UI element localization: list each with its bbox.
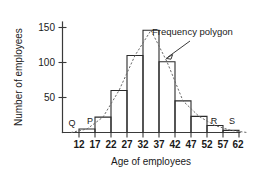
x-tick-label-47: 47 [185,139,197,150]
x-ticks [79,133,239,138]
bar-37-42 [159,62,175,133]
x-tick-label-32: 32 [137,139,149,150]
annotation-leader-line [168,41,190,57]
x-tick-label-22: 22 [105,139,117,150]
bar-52-57 [207,126,223,133]
bar-32-37 [143,30,159,132]
x-tick-label-57: 57 [217,139,229,150]
point-label-p: P [87,116,93,126]
x-tick-label-12: 12 [73,139,85,150]
bar-22-27 [111,91,127,133]
y-tick-label-50: 50 [44,92,56,103]
x-axis-title: Age of employees [111,156,191,167]
annotation-arrow-head [166,55,172,60]
x-tick-label-37: 37 [153,139,165,150]
x-tick-label-42: 42 [169,139,181,150]
point-label-q: Q [68,118,75,128]
y-tick-label-150: 150 [38,22,55,33]
bar-17-22 [95,117,111,132]
x-tick-label-62: 62 [232,139,244,150]
annotation-leader [166,41,190,59]
histogram-figure: 150 100 50 Number of employees [0,0,272,176]
point-label-r: R [211,116,218,126]
bar-47-52 [191,116,207,132]
x-tick-labels: 12 17 22 27 32 37 42 47 52 57 62 [73,139,244,150]
frequency-polygon-annotation: Frequency polygon [152,26,233,37]
y-tick-label-100: 100 [38,57,55,68]
point-label-s: S [229,116,235,126]
y-axis-title: Number of employees [13,28,24,126]
x-tick-label-27: 27 [121,139,133,150]
x-tick-label-17: 17 [89,139,101,150]
x-tick-label-52: 52 [201,139,213,150]
frequency-histogram-chart: 150 100 50 Number of employees [0,0,272,176]
